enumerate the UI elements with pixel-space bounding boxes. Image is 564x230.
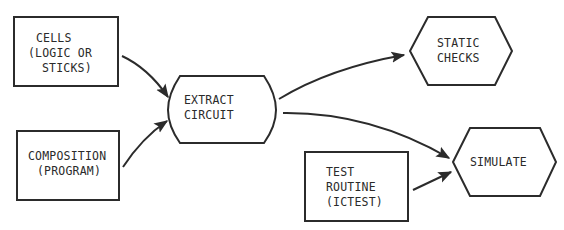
- cells-label-line-1: CELLS: [36, 31, 72, 45]
- node-composition: COMPOSITION (PROGRAM): [17, 131, 119, 200]
- simulate-label-line-1: SIMULATE: [470, 155, 527, 169]
- test-routine-label-line-2: ROUTINE: [326, 180, 376, 194]
- composition-label: COMPOSITION (PROGRAM): [28, 149, 114, 178]
- extract-circuit-label: EXTRACT CIRCUIT: [184, 93, 241, 122]
- test-routine-label-line-1: TEST: [326, 165, 355, 179]
- edge-composition-to-extract: [123, 121, 167, 167]
- static-checks-label-line-1: STATIC: [437, 36, 480, 50]
- cells-label-line-3: STICKS): [42, 61, 92, 75]
- composition-label-line-2: (PROGRAM): [37, 164, 101, 178]
- node-simulate: SIMULATE: [453, 128, 556, 196]
- edge-test-routine-to-simulate: [413, 172, 451, 190]
- node-static-checks: STATIC CHECKS: [410, 17, 512, 85]
- composition-label-line-1: COMPOSITION: [28, 149, 106, 163]
- node-extract-circuit: EXTRACT CIRCUIT: [168, 76, 276, 143]
- edge-cells-to-extract: [122, 56, 168, 97]
- edge-extract-to-static-checks: [279, 55, 404, 99]
- extract-label-line-1: EXTRACT: [184, 93, 234, 107]
- node-test-routine: TEST ROUTINE (ICTEST): [305, 152, 408, 221]
- simulate-label: SIMULATE: [470, 155, 527, 169]
- extract-label-line-2: CIRCUIT: [184, 108, 234, 122]
- test-routine-label-line-3: (ICTEST): [326, 195, 383, 209]
- flowchart: CELLS (LOGIC OR STICKS) COMPOSITION (PRO…: [0, 0, 564, 230]
- static-checks-label-line-2: CHECKS: [437, 51, 480, 65]
- cells-label-line-2: (LOGIC OR: [28, 46, 92, 60]
- node-cells: CELLS (LOGIC OR STICKS): [14, 17, 118, 86]
- static-checks-label: STATIC CHECKS: [437, 36, 487, 65]
